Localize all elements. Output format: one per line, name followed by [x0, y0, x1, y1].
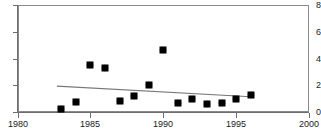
scatter-chart: 02468 19801985199019952000 [0, 0, 321, 134]
data-point [160, 47, 167, 54]
data-point [116, 97, 123, 104]
data-point [72, 98, 79, 105]
data-point [145, 81, 152, 88]
data-point [189, 95, 196, 102]
data-point [203, 100, 210, 107]
data-point [101, 64, 108, 71]
data-point [247, 92, 254, 99]
data-point [174, 100, 181, 107]
data-point [233, 96, 240, 103]
trend-line [0, 0, 321, 134]
data-point [131, 92, 138, 99]
data-point [218, 100, 225, 107]
data-point [58, 106, 65, 113]
data-point [87, 61, 94, 68]
